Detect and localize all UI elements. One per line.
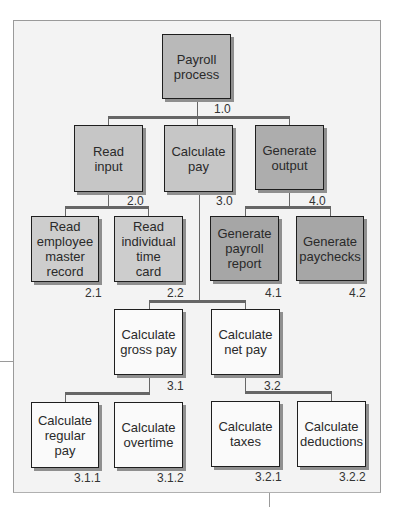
node-number: 2.2 xyxy=(167,287,184,299)
node-generate-paychecks: Generate paychecks xyxy=(296,216,364,281)
connector xyxy=(148,207,149,216)
node-label: Calculate regular pay xyxy=(38,413,92,458)
connector xyxy=(197,117,198,125)
connector xyxy=(289,117,290,125)
connector xyxy=(108,116,290,119)
node-calculate-overtime: Calculate overtime xyxy=(114,402,183,468)
node-read-employee-master-record: Read employee master record xyxy=(31,216,99,282)
node-label: Read employee master record xyxy=(37,219,93,279)
connector xyxy=(330,207,331,216)
node-generate-payroll-report: Generate payroll report xyxy=(210,216,279,281)
node-payroll-process: Payroll process xyxy=(162,34,231,99)
node-number: 4.2 xyxy=(349,287,366,299)
node-calculate-deductions: Calculate deductions xyxy=(297,401,366,467)
node-number: 4.1 xyxy=(265,287,282,299)
connector xyxy=(65,392,150,395)
node-number: 3.2.1 xyxy=(255,471,282,483)
node-label: Calculate deductions xyxy=(300,419,363,449)
node-label: Generate paychecks xyxy=(299,234,360,264)
connector xyxy=(245,375,246,392)
node-calculate-pay: Calculate pay xyxy=(164,125,233,192)
page-edge-line-bottom xyxy=(269,493,270,507)
node-label: Calculate gross pay xyxy=(120,327,176,357)
node-label: Calculate net pay xyxy=(218,327,272,357)
connector xyxy=(245,301,246,309)
connector xyxy=(245,207,246,216)
connector xyxy=(108,117,109,125)
node-label: Calculate taxes xyxy=(218,419,272,449)
connector xyxy=(331,392,332,401)
node-number: 2.0 xyxy=(127,195,144,207)
node-number: 1.0 xyxy=(214,103,231,115)
node-number: 3.1.2 xyxy=(157,472,184,484)
node-number: 3.2 xyxy=(264,380,281,392)
node-calculate-regular-pay: Calculate regular pay xyxy=(31,402,99,468)
node-label: Payroll process xyxy=(174,52,220,82)
node-number: 3.1.1 xyxy=(74,472,101,484)
page-edge-line-left xyxy=(0,361,14,362)
node-label: Read input xyxy=(93,144,124,174)
node-read-individual-time-card: Read individual time card xyxy=(114,216,183,282)
connector xyxy=(245,391,332,394)
connector xyxy=(108,192,109,207)
connector xyxy=(149,301,150,309)
node-calculate-gross-pay: Calculate gross pay xyxy=(114,309,183,375)
node-label: Read individual time card xyxy=(121,219,175,279)
node-label: Generate output xyxy=(262,143,316,173)
node-calculate-taxes: Calculate taxes xyxy=(211,401,280,467)
node-generate-output: Generate output xyxy=(255,125,324,190)
connector xyxy=(149,300,246,303)
node-calculate-net-pay: Calculate net pay xyxy=(211,309,280,375)
connector xyxy=(199,192,200,301)
node-number: 4.0 xyxy=(309,195,326,207)
connector xyxy=(65,207,66,216)
connector xyxy=(197,99,198,117)
connector xyxy=(65,393,66,402)
node-number: 3.0 xyxy=(216,195,233,207)
node-label: Generate payroll report xyxy=(217,226,271,271)
connector xyxy=(149,375,150,393)
connector xyxy=(289,190,290,207)
node-label: Calculate pay xyxy=(171,144,225,174)
node-number: 2.1 xyxy=(85,287,102,299)
node-read-input: Read input xyxy=(74,125,143,192)
node-number: 3.2.2 xyxy=(339,471,366,483)
node-label: Calculate overtime xyxy=(121,420,175,450)
node-number: 3.1 xyxy=(167,380,184,392)
